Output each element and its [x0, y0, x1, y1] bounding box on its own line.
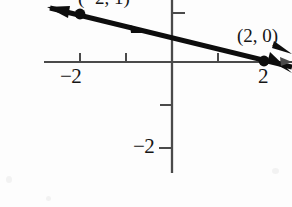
point-label-2-0: (2, 0) — [237, 26, 278, 45]
x-axis-label-pos2: 2 — [258, 66, 269, 87]
line-arrow-left — [47, 6, 70, 18]
point-label-neg2-1: (−2, 1) — [78, 0, 130, 7]
x-axis-label-neg2: −2 — [60, 66, 81, 87]
data-point-neg2-1 — [75, 9, 86, 20]
line-direction-arrow — [130, 25, 152, 33]
y-axis-label-neg2: −2 — [133, 136, 154, 157]
graph-figure: (−2, 1) (2, 0) −2 2 −2 — [0, 0, 292, 207]
